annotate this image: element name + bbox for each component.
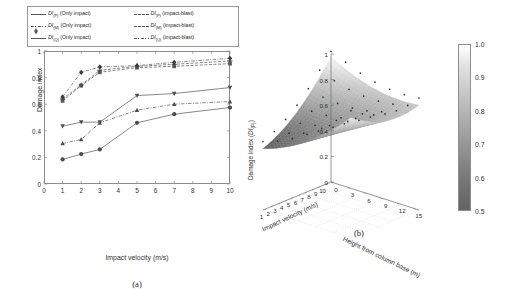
- x-tick-label-a: 8: [185, 187, 201, 194]
- x-tick-label-a: 2: [73, 187, 89, 194]
- z-tick-label-b: 0.4: [306, 127, 328, 134]
- legend-label: DI(M) (impact-blast): [151, 23, 195, 30]
- x-tick-label-a: 4: [110, 187, 126, 194]
- colorbar-tick-label: 0.6: [475, 174, 484, 181]
- z-axis-label-b: Damage index (DI(P)): [247, 120, 256, 180]
- x-tick-label-a: 7: [166, 187, 182, 194]
- y-tick-label-b: 9: [379, 201, 393, 208]
- panel-b-surface-chart: Damage index (DI(P)) Impact velocity (m/…: [253, 0, 505, 258]
- panel-b-caption: (b): [253, 228, 465, 238]
- series-marker: [228, 105, 232, 109]
- series-marker: [60, 124, 64, 128]
- y-tick-label-a: 0.4: [1, 127, 41, 134]
- legend-symbol-triangle-down-solid: [31, 35, 46, 42]
- y-tick-label-b: 3: [346, 191, 360, 198]
- x-tick-label-a: 5: [129, 187, 145, 194]
- legend-item-di-p-only-impact: DI(P) (Only impact): [31, 11, 134, 18]
- legend-symbol-diamond-dashdot: [134, 35, 149, 42]
- colorbar-tick-label: 0.9: [475, 74, 484, 81]
- panel-a-line-chart: DI(P) (Only impact) DI(P) (impact-blast)…: [0, 0, 253, 258]
- y-tick-label-a: 0.2: [1, 154, 41, 161]
- legend-label: DI(Q) (Only impact): [48, 35, 91, 42]
- panel-a-caption: (a): [44, 279, 230, 289]
- x-tick-label-a: 10: [222, 187, 238, 194]
- series-line: [63, 58, 230, 97]
- legend-item-di-q-only-impact: DI(Q) (Only impact): [31, 35, 134, 42]
- x-tick-label-b: 1: [254, 212, 268, 219]
- z-tick-label-b: 0.6: [306, 102, 328, 109]
- legend-item-di-m-impact-blast: DI(M) (impact-blast): [134, 23, 237, 30]
- z-tick-label-b: 0.2: [306, 153, 328, 160]
- legend-item-di-m-only-impact: DI(M) (Only impact): [31, 23, 134, 30]
- series-marker: [61, 157, 65, 161]
- y-tick-label-b: 15: [412, 212, 426, 219]
- colorbar: [458, 44, 471, 211]
- y-tick-label-b: 6: [362, 196, 376, 203]
- colorbar-tick-label: 1.0: [475, 41, 484, 48]
- colorbar-tick-label: 0.7: [475, 141, 484, 148]
- x-tick-label-a: 1: [55, 187, 71, 194]
- y-tick-label-a: 0.8: [1, 74, 41, 81]
- series-marker: [79, 152, 83, 156]
- legend: DI(P) (Only impact) DI(P) (impact-blast)…: [27, 6, 239, 47]
- legend-label: DI(Q) (impact-blast): [151, 35, 194, 42]
- line-chart-svg: [44, 51, 230, 184]
- x-axis-label-a: Impact velocity (m/s): [44, 254, 230, 261]
- colorbar-tick-label: 0.5: [475, 208, 484, 215]
- series-marker: [98, 147, 102, 151]
- plot-area-a: Damage index Impact velocity (m/s) (a): [44, 51, 230, 184]
- colorbar-tick-label: 0.8: [475, 107, 484, 114]
- series-marker: [135, 108, 139, 112]
- damage-index-surface: [263, 57, 419, 149]
- series-marker: [228, 56, 232, 61]
- z-tick-label-b: 1: [306, 51, 328, 58]
- x-tick-label-a: 6: [148, 187, 164, 194]
- series-marker: [98, 64, 102, 69]
- legend-label: DI(M) (Only impact): [48, 23, 91, 30]
- z-tick-label-b: 0: [306, 179, 328, 186]
- series-marker: [172, 112, 176, 116]
- legend-symbol-triangle-up-dashdot: [31, 23, 46, 30]
- y-tick-label-b: 0: [329, 186, 343, 193]
- y-tick-label-a: 1: [1, 48, 41, 55]
- legend-label: DI(P) (Only impact): [48, 11, 91, 18]
- legend-label: DI(P) (impact-blast): [151, 11, 194, 18]
- legend-symbol-plus-dash: [134, 23, 149, 30]
- x-tick-label-a: 9: [203, 187, 219, 194]
- legend-symbol-square-dash: [134, 11, 149, 18]
- series-marker: [135, 121, 139, 125]
- series-line: [63, 108, 230, 160]
- y-tick-label-b: 12: [395, 207, 409, 214]
- series-line: [63, 61, 230, 99]
- y-tick-label-a: 0: [1, 181, 41, 188]
- x-tick-label-a: 0: [36, 187, 52, 194]
- legend-symbol-circle-solid: [31, 11, 46, 18]
- z-tick-label-b: 0.8: [306, 76, 328, 83]
- legend-item-di-p-impact-blast: DI(P) (impact-blast): [134, 11, 237, 18]
- y-axis-label-b: Height from column base (m): [342, 235, 421, 279]
- y-tick-label-a: 0.6: [1, 101, 41, 108]
- x-tick-label-a: 3: [92, 187, 108, 194]
- legend-item-di-q-impact-blast: DI(Q) (impact-blast): [134, 35, 237, 42]
